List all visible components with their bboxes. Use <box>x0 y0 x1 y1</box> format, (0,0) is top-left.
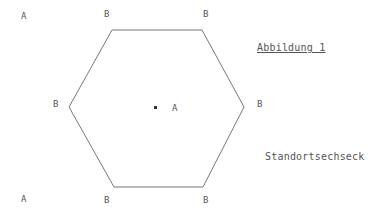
figure-title: Abbildung 1 <box>257 42 325 53</box>
figure-caption: Standortsechseck <box>265 151 365 162</box>
point-label-vertex-b: B <box>203 196 208 205</box>
point-label-vertex-b: B <box>104 196 109 205</box>
center-point-marker <box>154 106 157 109</box>
point-label-vertex-b: B <box>53 100 58 109</box>
point-label-corner-a: A <box>21 195 26 204</box>
point-label-center-a: A <box>172 104 177 113</box>
diagram-canvas: ABBBABABB Abbildung 1 Standortsechseck <box>0 0 386 216</box>
point-label-vertex-b: B <box>104 10 109 19</box>
point-label-vertex-b: B <box>203 10 208 19</box>
point-label-vertex-b: B <box>257 100 262 109</box>
point-label-corner-a: A <box>21 12 26 21</box>
